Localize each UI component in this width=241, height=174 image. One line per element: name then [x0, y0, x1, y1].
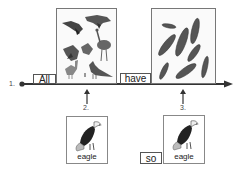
pointer-label-2: 2. — [83, 104, 89, 111]
word-box-have: have — [120, 73, 151, 84]
eagle-card-2-label: eagle — [164, 152, 204, 161]
feathers-collection-icon — [152, 9, 215, 83]
word-box-so: so — [140, 152, 162, 164]
feathers-image — [151, 8, 216, 84]
eagle-card-1-label: eagle — [67, 152, 107, 161]
birds-image — [56, 8, 117, 84]
word-box-all: All — [33, 74, 56, 84]
eagle-icon — [169, 118, 201, 152]
pointer-arrow-2 — [83, 89, 91, 105]
pointer-label-3: 3. — [180, 104, 186, 111]
pointer-arrow-3 — [179, 89, 187, 105]
eagle-card-2: eagle — [163, 115, 205, 164]
eagle-icon — [72, 119, 104, 153]
birds-collection-icon — [57, 9, 116, 83]
eagle-card-1: eagle — [66, 116, 108, 164]
